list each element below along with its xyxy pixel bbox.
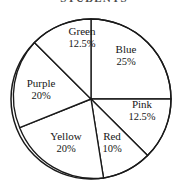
pie-label-blue: Blue 25%	[103, 44, 149, 67]
pie-chart-figure: STUDENTS Blue 25% Pink 12.5% Red 10% Yel…	[0, 0, 188, 195]
pie-label-yellow-name: Yellow	[40, 131, 92, 143]
pie-label-pink: Pink 12.5%	[116, 99, 168, 122]
pie-label-purple: Purple 20%	[14, 78, 68, 101]
pie-label-red: Red 10%	[92, 131, 132, 154]
pie-label-red-percent: 10%	[92, 143, 132, 154]
pie-label-purple-percent: 20%	[14, 90, 68, 101]
pie-label-yellow-percent: 20%	[40, 143, 92, 154]
pie-label-blue-percent: 25%	[103, 56, 149, 67]
pie-label-yellow: Yellow 20%	[40, 131, 92, 154]
pie-label-purple-name: Purple	[14, 78, 68, 90]
pie-label-red-name: Red	[92, 131, 132, 143]
pie-label-green-name: Green	[56, 26, 108, 38]
pie-label-green-percent: 12.5%	[56, 38, 108, 49]
pie-label-green: Green 12.5%	[56, 26, 108, 49]
pie-label-pink-name: Pink	[116, 99, 168, 111]
pie-label-blue-name: Blue	[103, 44, 149, 56]
pie-label-pink-percent: 12.5%	[116, 111, 168, 122]
